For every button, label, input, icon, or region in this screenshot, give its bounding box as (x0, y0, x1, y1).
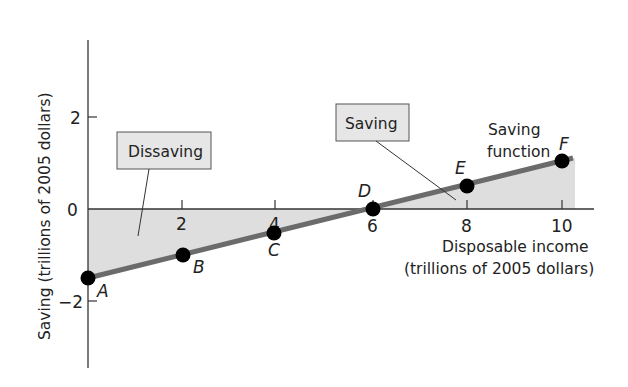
point-label-a: A (96, 281, 109, 301)
curve-label-line1: Saving (488, 121, 540, 139)
point-e (460, 179, 475, 194)
y-tick-neg2: −2 (58, 292, 83, 312)
point-f (555, 154, 570, 169)
curve-label-line2: function (487, 143, 550, 161)
x-tick-6: 6 (367, 216, 378, 236)
point-b (176, 248, 191, 263)
x-axis-label-line1: Disposable income (442, 238, 589, 256)
point-label-e: E (455, 158, 466, 178)
x-tick-8: 8 (461, 216, 472, 236)
saving-pointer (376, 141, 456, 200)
saving-label: Saving (345, 115, 397, 133)
point-a (81, 271, 96, 286)
y-axis-label: Saving (trillions of 2005 dollars) (36, 92, 54, 340)
point-c (267, 226, 282, 241)
y-tick-0: 0 (67, 200, 78, 220)
y-tick-2: 2 (70, 108, 81, 128)
point-label-b: B (193, 257, 205, 277)
x-tick-2: 2 (176, 214, 187, 234)
saving-function-chart: 2 0 −2 2 4 6 8 10 Saving (trillions of 2… (0, 0, 628, 387)
point-label-f: F (559, 134, 569, 154)
dissaving-label: Dissaving (128, 143, 203, 161)
x-axis-label-line2: (trillions of 2005 dollars) (404, 260, 594, 278)
point-label-c: C (268, 240, 280, 260)
point-label-d: D (358, 181, 371, 201)
point-d (366, 202, 381, 217)
x-tick-10: 10 (551, 216, 573, 236)
